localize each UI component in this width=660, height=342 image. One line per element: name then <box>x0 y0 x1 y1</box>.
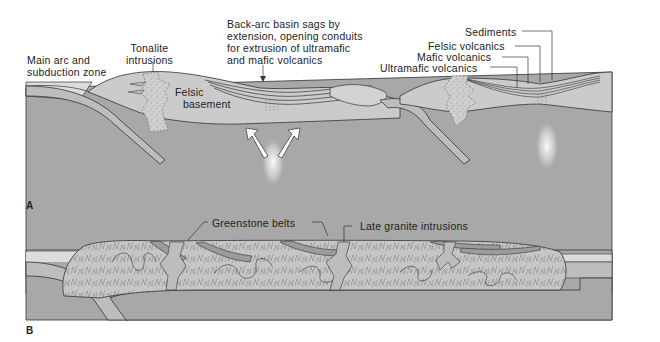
label-tonalite-line1: Tonalite <box>126 42 173 54</box>
panel-letter-b: B <box>26 325 33 336</box>
label-felsic-line1: Felsic <box>175 86 231 98</box>
label-back-arc-line1: Back-arc basin sags by <box>227 18 363 30</box>
label-tonalite-line2: intrusions <box>126 54 173 66</box>
label-felsic-basement: Felsic basement <box>175 86 231 110</box>
label-sediments: Sediments <box>465 26 516 38</box>
label-greenstone-belts: Greenstone belts <box>212 217 295 229</box>
mantle-plume-right <box>535 120 559 172</box>
label-late-granite: Late granite intrusions <box>360 220 468 232</box>
label-felsic-line2: basement <box>175 98 231 110</box>
label-main-arc: Main arc and subduction zone <box>27 54 106 78</box>
label-main-arc-line1: Main arc and <box>27 54 106 66</box>
label-back-arc-line2: extension, opening conduits <box>227 30 363 42</box>
mantle-plume-left <box>261 136 285 188</box>
label-main-arc-line2: subduction zone <box>27 66 106 78</box>
panel-letter-a: A <box>26 200 33 211</box>
label-back-arc-line3: for extrusion of ultramafic <box>227 42 363 54</box>
label-ultramafic-volcanics: Ultramafic volcanics <box>380 62 477 74</box>
label-back-arc: Back-arc basin sags by extension, openin… <box>227 18 363 66</box>
label-back-arc-line4: and mafic volcanics <box>227 54 363 66</box>
label-tonalite: Tonalite intrusions <box>126 42 173 66</box>
